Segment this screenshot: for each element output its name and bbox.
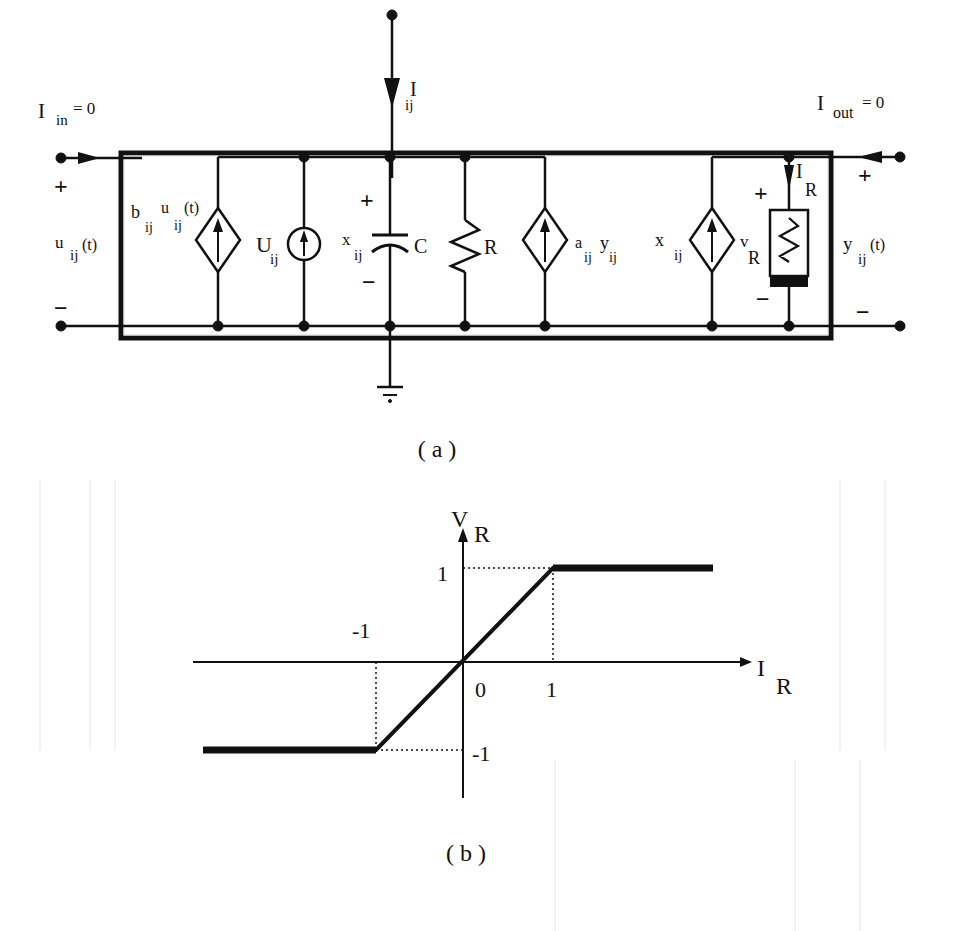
caption-b: ( b ): [446, 840, 486, 866]
svg-text:ij: ij: [584, 250, 592, 265]
tick-y-pos: 1: [437, 561, 448, 586]
x-ij-dependent-source: [690, 157, 734, 331]
tick-origin: 0: [475, 677, 486, 702]
tick-y-neg: -1: [472, 741, 490, 766]
svg-text:ij: ij: [405, 97, 413, 113]
svg-text:−: −: [362, 269, 376, 295]
svg-text:+: +: [754, 180, 768, 206]
svg-text:b: b: [131, 202, 140, 222]
svg-text:(t): (t): [82, 236, 97, 254]
svg-text:x: x: [342, 230, 351, 249]
svg-text:out: out: [833, 104, 854, 121]
svg-text:C: C: [414, 235, 427, 257]
svg-text:I: I: [817, 91, 824, 115]
svg-text:R: R: [805, 180, 817, 200]
circuit-labels: I in = 0 I out = 0 I ij + − + − u ij (t)…: [38, 78, 885, 325]
input-minus-terminal: [56, 321, 66, 331]
svg-text:−: −: [756, 286, 770, 312]
svg-text:u: u: [55, 233, 64, 252]
svg-text:x: x: [655, 230, 664, 250]
svg-text:ij: ij: [145, 220, 153, 235]
svg-text:(t): (t): [870, 236, 885, 254]
output-minus-terminal: [895, 321, 905, 331]
cnn-cell-figure: I in = 0 I out = 0 I ij + − + − u ij (t)…: [0, 0, 955, 931]
resistor-R: [451, 152, 479, 331]
svg-text:+: +: [54, 173, 68, 199]
svg-text:−: −: [856, 299, 870, 325]
b-ij-dependent-source: [196, 157, 240, 331]
caption-a: ( a ): [418, 436, 457, 462]
svg-text:y: y: [843, 233, 853, 254]
svg-text:R: R: [748, 248, 760, 268]
svg-text:+: +: [360, 187, 374, 213]
svg-text:ij: ij: [609, 250, 617, 265]
U-ij-current-source: [288, 152, 320, 331]
svg-text:ij: ij: [270, 251, 278, 267]
I-in-arrow-icon: [78, 152, 100, 164]
svg-text:(t): (t): [184, 199, 199, 217]
y-axis-label: V: [451, 506, 469, 532]
svg-text:= 0: = 0: [73, 99, 95, 118]
svg-text:I: I: [796, 160, 803, 182]
svg-text:ij: ij: [70, 247, 78, 263]
x-axis-label: I: [757, 655, 765, 681]
svg-text:ij: ij: [858, 251, 866, 267]
svg-text:in: in: [56, 112, 68, 128]
y-axis-label-sub: R: [474, 521, 490, 547]
svg-text:ij: ij: [174, 218, 182, 233]
x-axis-arrow-icon: [740, 657, 752, 667]
x-axis-label-sub: R: [776, 673, 792, 699]
vi-characteristic-plot: 0 1 -1 1 -1 V R I R: [193, 506, 792, 798]
svg-text:y: y: [600, 233, 609, 253]
a-ij-dependent-source: [523, 157, 567, 331]
svg-text:+: +: [858, 162, 872, 188]
svg-text:ij: ij: [674, 247, 682, 263]
svg-text:u: u: [161, 199, 169, 216]
saturation-curve: [203, 568, 713, 750]
svg-text:R: R: [484, 236, 498, 258]
I-ij-arrow-icon: [384, 78, 400, 108]
tick-x-neg: -1: [352, 618, 370, 643]
svg-text:ij: ij: [354, 247, 362, 263]
I-R-arrow-icon: [784, 165, 794, 190]
svg-text:= 0: = 0: [862, 93, 884, 112]
tick-x-pos: 1: [546, 677, 557, 702]
svg-text:a: a: [575, 234, 582, 251]
capacitor-C: [372, 152, 408, 403]
svg-text:I: I: [38, 99, 45, 123]
svg-text:−: −: [54, 295, 68, 321]
